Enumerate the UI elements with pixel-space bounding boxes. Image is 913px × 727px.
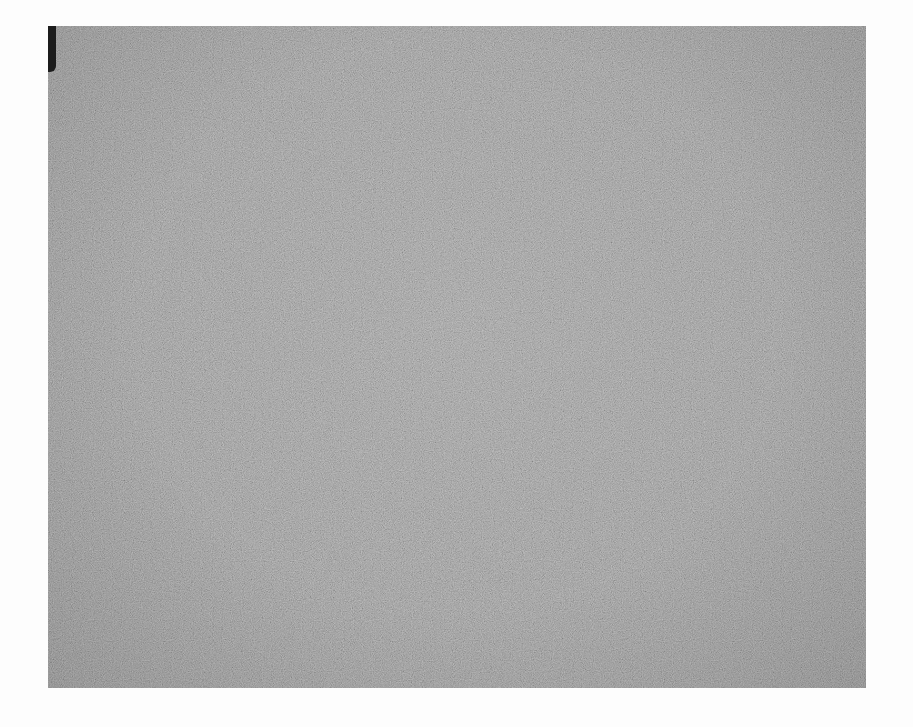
gray-textured-photo xyxy=(48,26,866,688)
page xyxy=(0,0,913,727)
dark-edge-bar xyxy=(48,26,56,72)
vignette xyxy=(48,26,866,688)
